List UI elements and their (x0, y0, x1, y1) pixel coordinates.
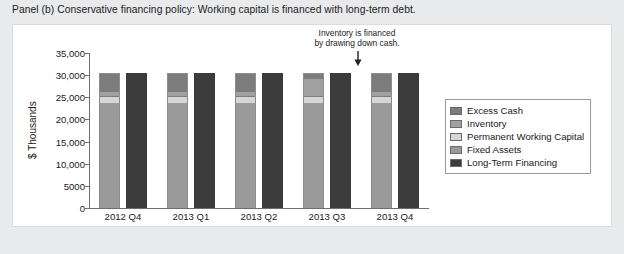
bar[interactable] (235, 73, 256, 208)
bar-segment[interactable] (331, 74, 350, 208)
y-axis-tickmark (85, 164, 89, 165)
bar-segment[interactable] (372, 103, 391, 208)
y-axis-tick-labels: 0500010,00015,00020,00025,00030,00035,00… (39, 53, 85, 209)
bar-group (225, 53, 293, 208)
y-axis-tickmark (85, 186, 89, 187)
legend-swatch (450, 120, 462, 128)
y-axis-tickmark (85, 142, 89, 143)
bar-segment[interactable] (168, 74, 187, 91)
annotation-line-1: Inventory is financed (297, 28, 417, 38)
y-axis-tickmark (85, 208, 89, 209)
y-axis-tick-label: 25,000 (39, 92, 85, 104)
bar-segment[interactable] (236, 96, 255, 103)
bar[interactable] (167, 73, 188, 208)
legend-swatch (450, 107, 462, 115)
legend-item[interactable]: Long-Term Financing (450, 156, 584, 169)
bar-segment[interactable] (127, 74, 146, 208)
x-axis-tick-label: 2013 Q2 (225, 211, 293, 222)
bar-group (157, 53, 225, 208)
bar-segment[interactable] (304, 96, 323, 103)
bar-segment[interactable] (100, 96, 119, 103)
x-axis-tick-label: 2012 Q4 (89, 211, 157, 222)
y-axis-tick-label: 15,000 (39, 137, 85, 149)
legend-item[interactable]: Fixed Assets (450, 143, 584, 156)
y-axis-tickmark (85, 97, 89, 98)
bar[interactable] (126, 73, 147, 208)
bar-group (361, 53, 429, 208)
bar[interactable] (398, 73, 419, 208)
x-axis-tick-label: 2013 Q3 (293, 211, 361, 222)
legend-label: Fixed Assets (467, 144, 521, 155)
bar-segment[interactable] (236, 103, 255, 208)
legend-item[interactable]: Permanent Working Capital (450, 130, 584, 143)
bar-segment[interactable] (236, 74, 255, 91)
bar[interactable] (303, 73, 324, 208)
legend-label: Long-Term Financing (467, 157, 557, 168)
legend-item[interactable]: Inventory (450, 117, 584, 130)
bar-group (293, 53, 361, 208)
bar-segment[interactable] (372, 96, 391, 103)
bar-segment[interactable] (304, 78, 323, 96)
legend-swatch (450, 159, 462, 167)
y-axis-tickmark (85, 75, 89, 76)
y-axis-tick-label: 30,000 (39, 70, 85, 82)
bar[interactable] (99, 73, 120, 208)
bar[interactable] (330, 73, 351, 208)
y-axis-tick-label: 0 (39, 203, 85, 215)
legend-swatch (450, 146, 462, 154)
y-axis-tick-label: 20,000 (39, 114, 85, 126)
bars-layer (89, 53, 429, 208)
plot-area: $ Thousands 0500010,00015,00020,00025,00… (13, 25, 611, 226)
bar-segment[interactable] (100, 74, 119, 91)
x-axis-line (89, 208, 429, 209)
legend-label: Excess Cash (467, 105, 523, 116)
bar-segment[interactable] (304, 103, 323, 208)
axis-frame (89, 53, 429, 209)
bar-segment[interactable] (168, 103, 187, 208)
legend: Excess CashInventoryPermanent Working Ca… (445, 99, 591, 174)
bar-segment[interactable] (100, 103, 119, 208)
legend-swatch (450, 133, 462, 141)
down-arrow-icon (352, 51, 364, 67)
x-axis-tick-labels: 2012 Q42013 Q12013 Q22013 Q32013 Q4 (89, 211, 429, 227)
bar-group (89, 53, 157, 208)
bar[interactable] (194, 73, 215, 208)
x-axis-tick-label: 2013 Q1 (157, 211, 225, 222)
y-axis-tick-label: 5000 (39, 181, 85, 193)
y-axis-tick-label: 35,000 (39, 48, 85, 60)
y-axis-tickmark (85, 119, 89, 120)
annotation-text: Inventory is financed by drawing down ca… (297, 28, 417, 49)
legend-label: Inventory (467, 118, 506, 129)
bar-segment[interactable] (168, 96, 187, 103)
x-axis-tick-label: 2013 Q4 (361, 211, 429, 222)
bar-segment[interactable] (263, 74, 282, 208)
bar-segment[interactable] (399, 74, 418, 208)
page-title: Panel (b) Conservative financing policy:… (12, 4, 416, 15)
bar-segment[interactable] (195, 74, 214, 208)
legend-label: Permanent Working Capital (467, 131, 584, 142)
y-axis-tick-label: 10,000 (39, 159, 85, 171)
chart-card: $ Thousands 0500010,00015,00020,00025,00… (12, 24, 612, 227)
bar[interactable] (262, 73, 283, 208)
y-axis-tickmark (85, 53, 89, 54)
annotation-line-2: by drawing down cash. (297, 38, 417, 48)
bar-segment[interactable] (372, 74, 391, 91)
legend-item[interactable]: Excess Cash (450, 104, 584, 117)
bar[interactable] (371, 73, 392, 208)
